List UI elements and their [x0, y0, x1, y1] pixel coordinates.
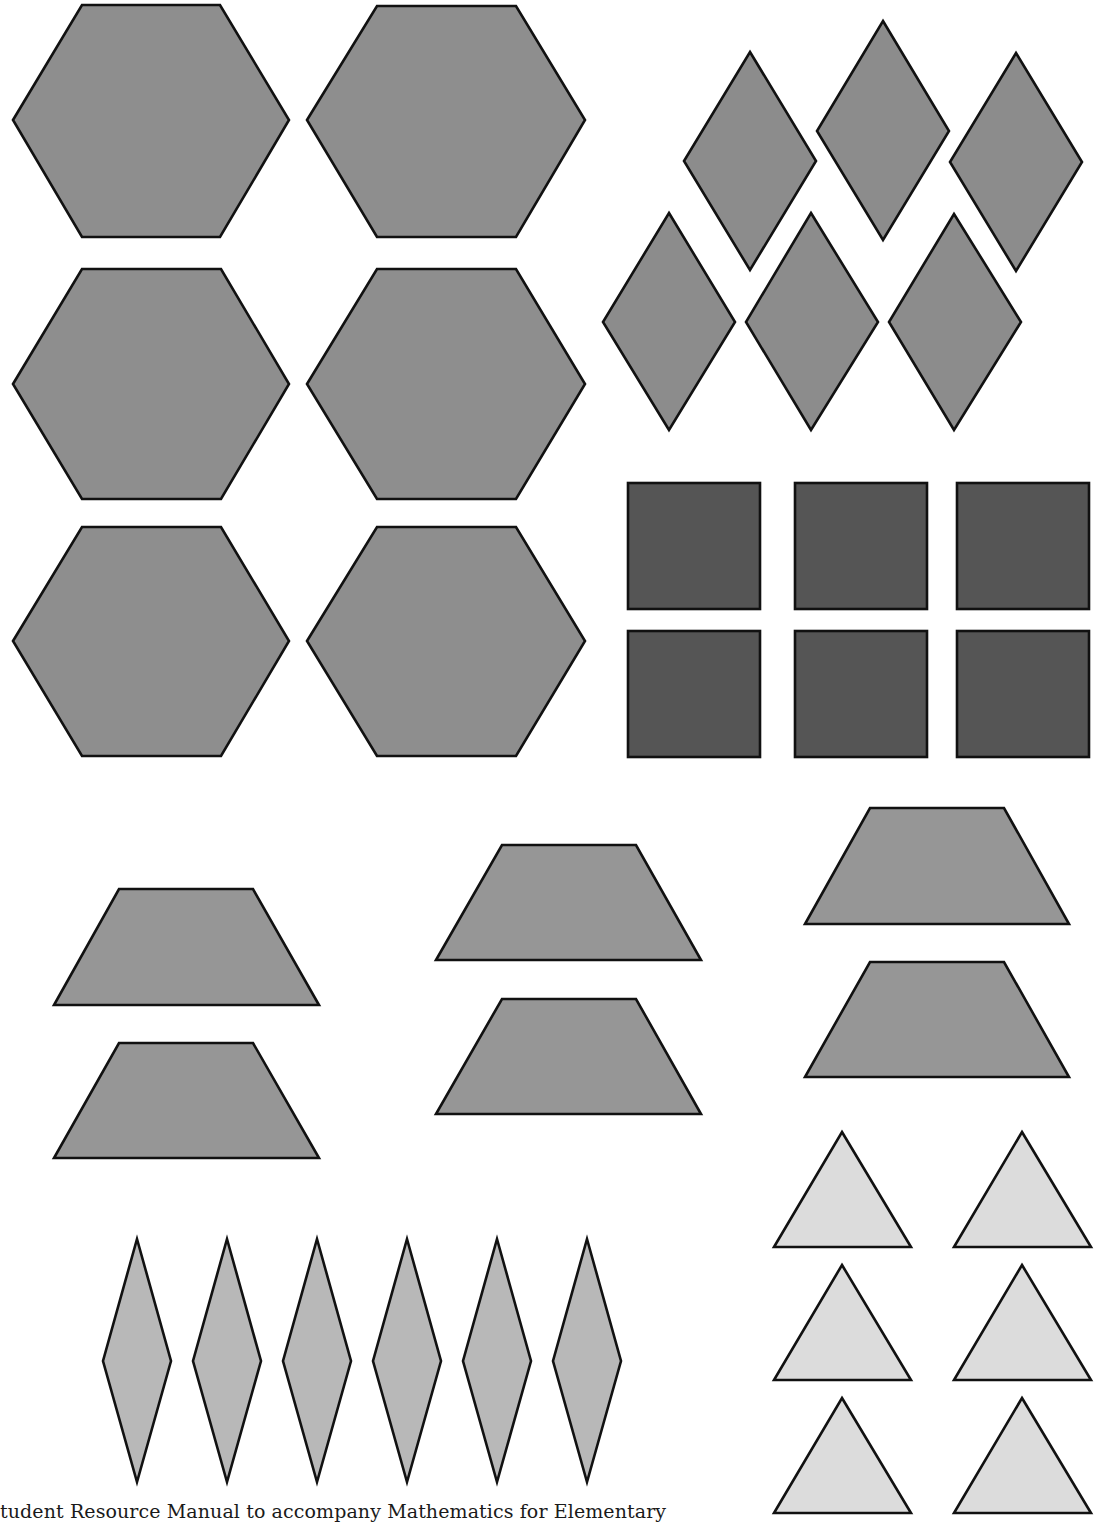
- footer-caption: tudent Resource Manual to accompany Math…: [0, 1500, 666, 1522]
- square-shape-6: [957, 631, 1089, 757]
- hexagon-shape-5: [13, 527, 289, 756]
- pattern-block-sheet: [0, 0, 1098, 1525]
- triangle-shape-6: [954, 1398, 1091, 1513]
- hexagon-shape-3: [13, 269, 289, 499]
- thin-rhombus-group: [103, 1239, 621, 1482]
- triangle-group: [774, 1132, 1091, 1513]
- square-shape-4: [628, 631, 760, 757]
- hexagon-shape-2: [307, 6, 585, 237]
- square-shape-1: [628, 483, 760, 609]
- triangle-shape-3: [774, 1265, 911, 1380]
- triangle-shape-2: [954, 1132, 1091, 1247]
- square-shape-5: [795, 631, 927, 757]
- rhombus-group: [603, 21, 1082, 430]
- trapezoid-shape-1: [54, 889, 319, 1005]
- thin-rhombus-shape-2: [193, 1239, 261, 1482]
- rhombus-shape-2: [817, 21, 949, 240]
- thin-rhombus-shape-6: [553, 1239, 621, 1482]
- rhombus-shape-4: [603, 213, 735, 430]
- square-shape-2: [795, 483, 927, 609]
- square-shape-3: [957, 483, 1089, 609]
- trapezoid-shape-3: [436, 845, 701, 960]
- triangle-shape-1: [774, 1132, 911, 1247]
- square-group: [628, 483, 1089, 757]
- trapezoid-group: [54, 808, 1069, 1158]
- thin-rhombus-shape-5: [463, 1239, 531, 1482]
- trapezoid-shape-6: [805, 962, 1069, 1077]
- hexagon-shape-1: [13, 5, 289, 237]
- hexagon-shape-6: [307, 527, 585, 756]
- trapezoid-shape-2: [54, 1043, 319, 1158]
- thin-rhombus-shape-3: [283, 1239, 351, 1482]
- thin-rhombus-shape-4: [373, 1239, 441, 1482]
- triangle-shape-4: [954, 1265, 1091, 1380]
- hexagon-shape-4: [307, 269, 585, 499]
- triangle-shape-5: [774, 1398, 911, 1513]
- thin-rhombus-shape-1: [103, 1239, 171, 1482]
- trapezoid-shape-4: [436, 999, 701, 1114]
- hexagon-group: [13, 5, 585, 756]
- trapezoid-shape-5: [805, 808, 1069, 924]
